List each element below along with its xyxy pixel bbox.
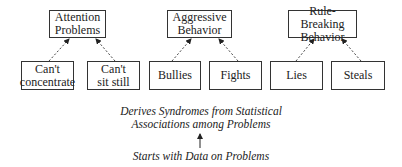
dashed-arrow-concentrate xyxy=(49,39,69,61)
problem-label-line: Can't xyxy=(20,63,75,76)
caption-derives-line1: Derives Syndromes from Statistical xyxy=(0,105,402,118)
caption-derives-line2: Associations among Problems xyxy=(0,118,402,131)
problem-box-bullies: Bullies xyxy=(149,61,201,90)
problem-box-cant-sit-still: Can'tsit still xyxy=(87,61,140,90)
problem-label: Lies xyxy=(286,69,307,82)
problem-box-cant-concentrate: Can'tconcentrate xyxy=(21,61,74,90)
problem-label: Fights xyxy=(220,69,250,82)
syndrome-label-line: Problems xyxy=(55,24,100,37)
syndrome-box-attention: AttentionProblems xyxy=(49,10,106,38)
problem-box-steals: Steals xyxy=(331,61,385,90)
caption-starts: Starts with Data on Problems xyxy=(0,150,402,163)
syndrome-label-line: Behavior xyxy=(173,24,227,37)
problem-box-lies: Lies xyxy=(270,61,323,90)
syndrome-label-line: Rule-Breaking xyxy=(289,5,356,31)
syndrome-label-line: Behavior xyxy=(289,31,356,44)
problem-label-line: Can't xyxy=(97,63,129,76)
syndrome-box-aggressive: AggressiveBehavior xyxy=(167,10,232,38)
dashed-arrow-fights xyxy=(219,39,238,61)
dashed-arrow-sit-still xyxy=(96,39,115,61)
problem-label: Steals xyxy=(344,69,373,82)
problem-label: Bullies xyxy=(158,69,192,82)
syndrome-box-rule-breaking: Rule-BreakingBehavior xyxy=(288,10,357,38)
problem-box-fights: Fights xyxy=(209,61,262,90)
problem-label-line: sit still xyxy=(97,76,129,89)
dashed-arrow-bullies xyxy=(172,39,191,61)
problem-label-line: concentrate xyxy=(20,76,75,89)
